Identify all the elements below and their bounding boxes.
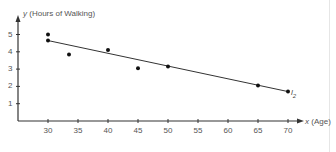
data-point [46, 39, 50, 43]
data-point [166, 65, 170, 69]
x-tick-label: 45 [134, 127, 143, 135]
y-axis-var: y [23, 9, 27, 18]
line-label-l2: l2 [291, 88, 296, 99]
x-tick-label: 50 [164, 127, 173, 135]
x-tick-label: 35 [74, 127, 83, 135]
y-tick-label: 3 [8, 65, 12, 73]
y-tick-label: 1 [8, 100, 12, 108]
data-point [67, 52, 71, 56]
x-axis-label: x (Age) [305, 117, 331, 126]
x-axis-arrow-icon [297, 119, 304, 124]
x-tick-label: 70 [284, 127, 293, 135]
line-label-subscript: 2 [293, 93, 296, 99]
data-point [286, 90, 290, 94]
data-point [256, 84, 260, 88]
y-tick-label: 2 [8, 82, 12, 90]
data-point [46, 33, 50, 37]
y-tick-label: 5 [8, 31, 12, 39]
y-axis-label-text: (Hours of Walking) [29, 9, 95, 18]
x-tick-label: 65 [254, 127, 263, 135]
data-point [136, 66, 140, 70]
y-axis-label: y (Hours of Walking) [23, 9, 95, 18]
x-tick-label: 55 [194, 127, 203, 135]
x-tick-label: 60 [224, 127, 233, 135]
y-tick-label: 4 [8, 48, 12, 56]
x-axis-label-text: (Age) [311, 117, 331, 126]
x-tick-label: 30 [44, 127, 53, 135]
data-point [106, 48, 110, 52]
x-axis-var: x [305, 117, 309, 126]
x-tick-label: 40 [104, 127, 113, 135]
y-axis-arrow-icon [16, 15, 21, 22]
